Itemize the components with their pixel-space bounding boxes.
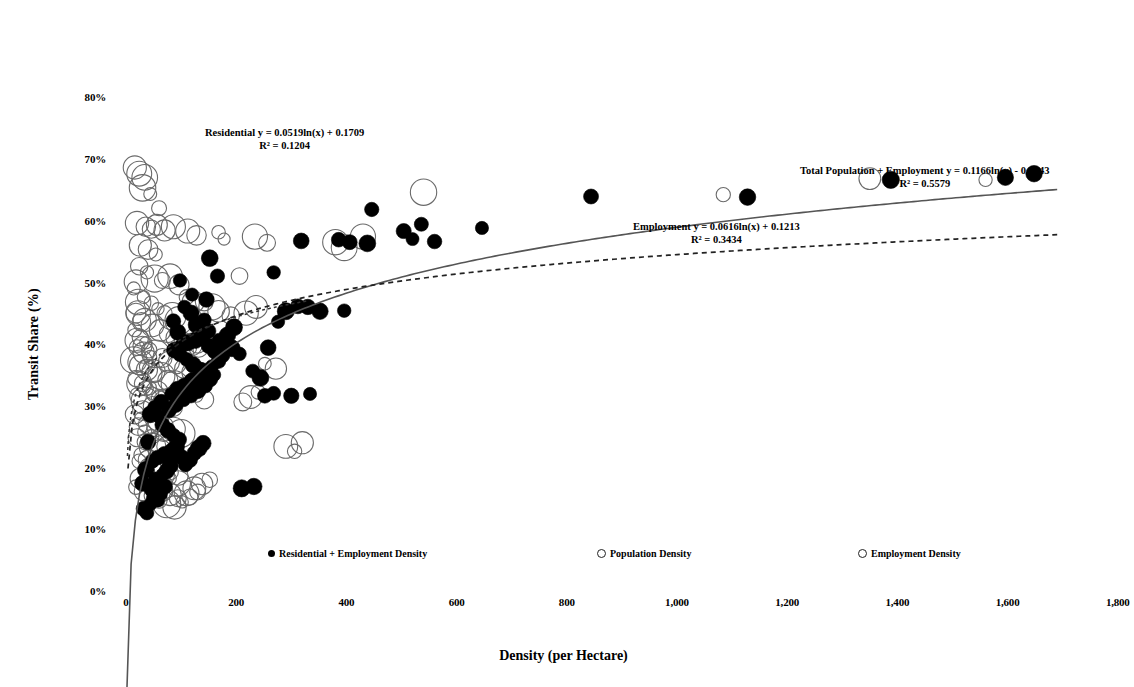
data-point <box>140 266 153 279</box>
legend-item-employment-density: Employment Density <box>858 548 961 559</box>
data-point <box>192 369 207 384</box>
data-point <box>198 379 212 393</box>
data-point <box>293 233 309 249</box>
data-point <box>146 214 167 235</box>
legend-item-residential-employment-density: Residential + Employment Density <box>268 548 427 559</box>
data-point <box>222 307 239 324</box>
data-point <box>199 294 225 320</box>
data-point <box>177 378 192 393</box>
data-point <box>144 489 158 503</box>
data-point <box>234 393 252 411</box>
data-point <box>267 386 281 400</box>
data-point <box>171 432 186 447</box>
data-point <box>267 266 281 280</box>
data-point <box>199 292 215 308</box>
data-point <box>170 324 186 340</box>
data-point <box>239 386 262 409</box>
data-point <box>152 201 167 216</box>
data-point <box>149 320 171 342</box>
data-point <box>148 400 162 414</box>
data-point <box>128 429 146 447</box>
trendline-total-population-employment <box>127 190 1057 687</box>
data-point <box>290 299 305 314</box>
data-point <box>163 496 186 519</box>
data-point <box>174 339 188 353</box>
data-point <box>137 434 152 449</box>
data-point <box>182 452 197 467</box>
data-point <box>161 417 185 441</box>
data-point <box>148 362 175 389</box>
series-residential-employment-density <box>135 165 1043 520</box>
x-tick-label: 1,000 <box>647 596 707 608</box>
data-point <box>414 217 428 231</box>
data-point <box>125 328 149 352</box>
data-point <box>194 362 208 376</box>
data-point <box>260 340 276 356</box>
data-point <box>132 454 146 468</box>
legend-item-population-density: Population Density <box>597 548 691 559</box>
data-point <box>173 347 187 361</box>
data-point <box>147 410 168 431</box>
data-point <box>138 415 157 434</box>
data-point <box>133 342 154 363</box>
data-point <box>181 385 196 400</box>
data-point <box>146 381 168 403</box>
data-point <box>184 389 198 403</box>
y-tick-label: 60% <box>60 215 106 227</box>
data-point <box>154 272 170 288</box>
trendline-employment <box>128 235 1057 469</box>
data-point <box>124 270 147 293</box>
data-point <box>130 387 147 404</box>
data-point <box>148 431 170 453</box>
series-employment-density <box>120 282 265 519</box>
data-point <box>584 189 599 204</box>
data-point <box>190 440 207 457</box>
data-point <box>134 482 153 501</box>
data-point <box>152 480 173 501</box>
y-axis-title-text: Transit Share (%) <box>26 288 42 400</box>
data-point <box>187 226 206 245</box>
data-point <box>176 219 200 243</box>
data-point <box>194 330 210 346</box>
data-point <box>174 481 199 506</box>
data-point <box>212 226 226 240</box>
data-point <box>170 467 188 485</box>
data-point <box>140 337 152 349</box>
data-point <box>164 472 176 484</box>
data-point <box>475 221 488 234</box>
data-point <box>138 425 152 439</box>
data-point <box>195 390 214 409</box>
data-point <box>223 340 240 357</box>
data-point <box>231 268 248 285</box>
data-point <box>157 436 177 456</box>
data-point <box>142 340 170 368</box>
y-tick-label: 30% <box>60 400 106 412</box>
data-point <box>186 288 199 301</box>
x-tick-label: 200 <box>206 596 266 608</box>
data-point <box>174 332 192 350</box>
data-point <box>242 224 267 249</box>
data-point <box>129 480 144 495</box>
data-point <box>140 506 154 520</box>
trendline-r2-residential: R² = 0.1204 <box>205 139 364 152</box>
data-point <box>162 457 178 473</box>
data-point <box>233 347 247 361</box>
data-point <box>165 387 178 400</box>
data-point <box>142 220 160 238</box>
data-point <box>199 333 214 348</box>
data-point <box>160 448 177 465</box>
data-point <box>135 475 151 491</box>
data-point <box>161 371 188 398</box>
y-tick-label: 80% <box>60 91 106 103</box>
data-point <box>137 461 154 478</box>
y-tick-label: 50% <box>60 277 106 289</box>
data-point <box>187 332 203 348</box>
data-point <box>138 381 153 396</box>
data-point <box>180 333 203 356</box>
data-point <box>180 352 194 366</box>
data-point <box>195 293 213 311</box>
data-point <box>134 375 150 391</box>
data-point <box>166 428 180 442</box>
data-point <box>166 443 183 460</box>
